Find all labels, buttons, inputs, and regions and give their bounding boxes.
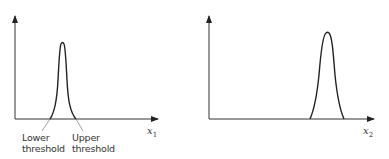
lower-threshold-line2: threshold [22,143,65,154]
left-x-axis-label: x1 [147,125,157,139]
lower-threshold-line1: Lower [22,132,65,143]
right-chart [209,16,374,119]
left-chart [15,16,158,131]
right-peak-curve [310,32,344,119]
upper-threshold-line2: threshold [72,143,115,154]
upper-threshold-label: Upper threshold [72,132,115,154]
upper-threshold-line1: Upper [72,132,115,143]
lower-threshold-label: Lower threshold [22,132,65,154]
left-peak-curve [50,43,76,120]
lower-threshold-leader [42,119,50,131]
right-x-axis-label: x2 [363,125,373,139]
upper-threshold-leader [76,119,83,131]
